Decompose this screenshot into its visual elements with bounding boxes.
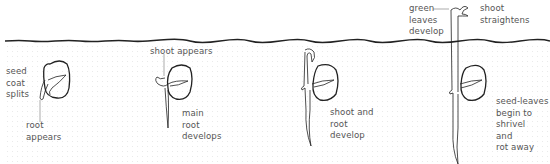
label-green-leaves-develop: green leaves develop <box>409 3 444 38</box>
soil-surface-line <box>5 39 550 42</box>
label-shoot-appears: shoot appears <box>150 46 213 58</box>
label-shoot-straightens: shoot straightens <box>480 3 530 26</box>
label-shoot-and-root-develop: shoot and root develop <box>330 107 374 142</box>
diagram-drawing <box>0 0 550 164</box>
germination-diagram: seed coat splits root appears shoot appe… <box>0 0 550 164</box>
stage-1-seed <box>40 61 70 122</box>
label-seed-coat-splits: seed coat splits <box>6 66 29 101</box>
label-root-appears: root appears <box>26 120 61 143</box>
label-seed-leaves-shrivel: seed-leaves begin to shrivel and rot awa… <box>496 96 549 154</box>
label-main-root-develops: main root develops <box>182 108 222 143</box>
